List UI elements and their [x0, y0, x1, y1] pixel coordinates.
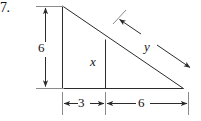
y-dim-arrow-lower: [157, 45, 190, 68]
dimension-label-height: 6: [38, 41, 45, 54]
triangle-hypotenuse: [63, 6, 184, 89]
problem-number: 7.: [0, 1, 10, 15]
dimension-label-base-right: 6: [138, 96, 145, 109]
variable-label-y: y: [144, 40, 150, 53]
y-dim-arrow-upper: [120, 20, 142, 35]
y-dim-tick: [113, 10, 126, 24]
dimension-label-base-left: 3: [78, 96, 85, 109]
geometry-figure: 7. 6 x y 3 6: [0, 0, 201, 121]
figure-drawing: [0, 0, 201, 121]
variable-label-x: x: [90, 55, 96, 68]
